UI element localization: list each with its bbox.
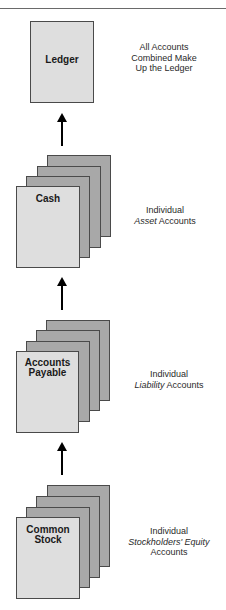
up-arrow-icon <box>57 277 67 310</box>
cash-label: Cash <box>17 194 79 204</box>
common-stock-label: Common Stock <box>17 525 79 545</box>
equity-caption: Individual Stockholders' Equity Accounts <box>124 526 214 558</box>
accounts-payable-label: Accounts Payable <box>17 358 78 378</box>
asset-caption: Individual Asset Accounts <box>124 205 206 226</box>
liability-caption: Individual Liability Accounts <box>124 369 214 390</box>
up-arrow-icon <box>57 113 67 146</box>
ledger-caption: All Accounts Combined Make Up the Ledger <box>118 42 210 74</box>
common-stock-card: Common Stock <box>16 517 80 599</box>
up-arrow-icon <box>57 442 67 475</box>
top-divider <box>0 8 226 9</box>
ledger-label: Ledger <box>31 55 93 65</box>
cash-card: Cash <box>16 186 80 268</box>
ledger-card: Ledger <box>30 21 94 103</box>
accounts-payable-card: Accounts Payable <box>16 351 79 433</box>
